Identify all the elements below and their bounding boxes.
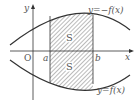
region-lower-label: S xyxy=(66,61,73,72)
origin-label: O xyxy=(24,53,31,63)
y-axis-label: y xyxy=(23,3,30,13)
b-label: b xyxy=(95,53,101,63)
a-label: a xyxy=(43,53,48,63)
upper-curve-label: y=−f(x) xyxy=(87,5,124,15)
x-axis-label: x xyxy=(125,52,130,62)
region-upper-label: S xyxy=(66,32,73,43)
y-axis-arrow-icon xyxy=(31,4,35,9)
lower-curve-label: y=f(x) xyxy=(96,85,126,95)
diagram: y x O a b y=−f(x) y=f(x) S S S S xyxy=(0,0,140,105)
